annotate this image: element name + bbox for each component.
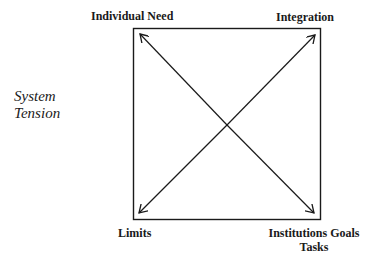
label-integration: Integration <box>276 10 334 24</box>
arrow-to-limits <box>139 125 227 213</box>
label-individual-need: Individual Need <box>91 9 173 23</box>
tension-diagram <box>0 0 375 261</box>
arrow-to-institutions <box>227 125 314 213</box>
arrow-to-individual-need <box>140 34 227 125</box>
system-tension-line2: Tension <box>14 105 60 122</box>
label-limits: Limits <box>118 226 151 240</box>
system-tension-label: System Tension <box>14 88 60 122</box>
label-institutions-goals-tasks: Institutions Goals Tasks <box>264 226 364 254</box>
label-institutions-line2: Tasks <box>264 240 364 254</box>
label-institutions-line1: Institutions Goals <box>264 226 364 240</box>
system-tension-line1: System <box>14 88 60 105</box>
arrow-to-integration <box>227 35 315 125</box>
